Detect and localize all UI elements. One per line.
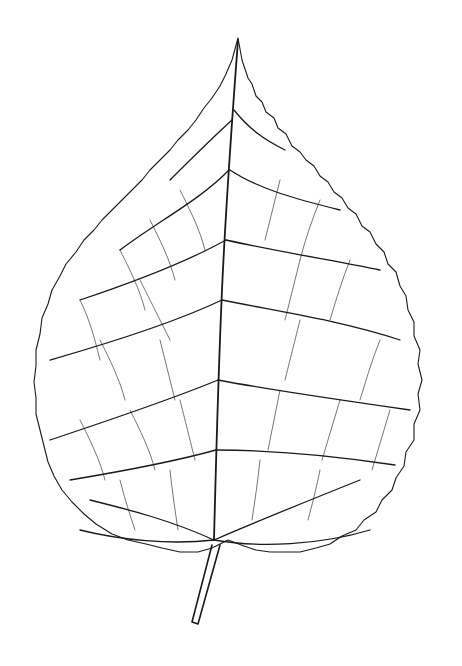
petiole bbox=[192, 545, 220, 624]
leaf-drawing bbox=[0, 0, 462, 666]
secondary-veins-left bbox=[50, 120, 232, 542]
secondary-veins-right bbox=[214, 110, 410, 544]
leaf-margin bbox=[34, 38, 422, 552]
midrib bbox=[214, 40, 238, 540]
tertiary-veins bbox=[80, 180, 390, 530]
